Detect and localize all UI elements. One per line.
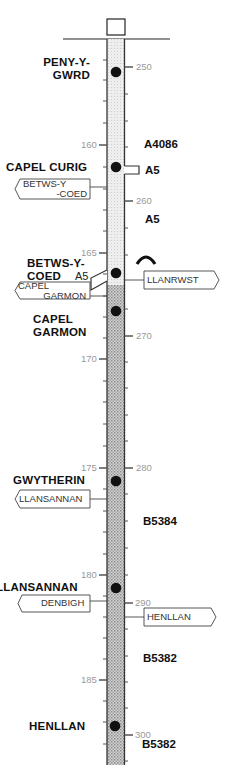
- left-scale-label-165: 165: [81, 247, 97, 258]
- sign-capel-garmon: CAPEL GARMON: [18, 281, 86, 301]
- town-marker-betws-y-coed: [111, 268, 122, 279]
- left-scale-label-160: 160: [81, 139, 97, 150]
- place-label-line1: GWYTHERIN: [13, 474, 85, 486]
- sign-betws-y-coed: BETWS-Y -COED: [23, 179, 87, 199]
- place-label-line2: GARMON: [33, 326, 87, 338]
- junction-a5-left: [91, 270, 107, 290]
- town-marker-henllan: [110, 721, 121, 732]
- sign-text-line1: LLANSANNAN: [19, 493, 82, 504]
- sign-text-line1: HENLLAN: [147, 611, 191, 622]
- junction-a5-right: [125, 166, 140, 174]
- place-label-line1: BETWS-Y-: [27, 257, 85, 269]
- place-gwytherin: GWYTHERIN: [13, 474, 85, 487]
- place-capel-garmon: CAPEL GARMON: [33, 313, 87, 339]
- right-scale-label-300: 300: [135, 729, 151, 740]
- left-scale-label-175: 175: [81, 462, 97, 473]
- town-marker-gwytherin: [111, 476, 122, 487]
- place-label-line1: PENY-Y-: [43, 56, 90, 68]
- right-scale-label-260: 260: [136, 195, 152, 206]
- sign-henllan: HENLLAN: [147, 612, 191, 622]
- place-label-line1: HENLLAN: [29, 720, 85, 732]
- sign-text-line2: GARMON: [18, 291, 86, 301]
- left-scale-label-185: 185: [81, 674, 97, 685]
- road-label-b5384: B5384: [143, 515, 177, 527]
- place-henllan: HENLLAN: [29, 720, 85, 733]
- left-scale-label-170: 170: [81, 353, 97, 364]
- place-peny-y-gwrd: PENY-Y- GWRD: [40, 56, 90, 82]
- road-label-a4086: A4086: [144, 138, 178, 150]
- right-scale-label-290: 290: [135, 597, 151, 608]
- road-label-a5: A5: [145, 164, 160, 176]
- left-scale-ticks: [99, 60, 107, 744]
- route-start-box: [107, 19, 125, 35]
- place-capel-curig: CAPEL CURIG: [6, 161, 87, 174]
- road-label-b5382: B5382: [143, 652, 177, 664]
- sign-text-line1: DENBIGH: [41, 597, 84, 608]
- right-scale-label-250: 250: [136, 61, 152, 72]
- route-strip-dark: [107, 285, 124, 765]
- place-label-line1: CAPEL: [33, 313, 73, 325]
- place-label-line1: LLANSANNAN: [0, 581, 78, 593]
- right-scale-label-280: 280: [136, 462, 152, 473]
- road-label-a5-2: A5: [145, 213, 160, 225]
- steep-hill-icon: [137, 257, 155, 264]
- left-scale-label-180: 180: [81, 569, 97, 580]
- sign-llanrwst: LLANRWST: [147, 275, 199, 285]
- place-label-line2: GWRD: [53, 69, 90, 81]
- place-label-line1: CAPEL CURIG: [6, 161, 87, 173]
- sign-denbigh: DENBIGH: [41, 598, 84, 608]
- sign-llansannan: LLANSANNAN: [19, 494, 82, 504]
- sign-text-line2: -COED: [23, 189, 87, 199]
- town-marker-capel-curig: [111, 162, 122, 173]
- place-llansannan: LLANSANNAN: [0, 581, 78, 594]
- right-scale-label-270: 270: [136, 330, 152, 341]
- route-strip-map: [0, 0, 234, 765]
- town-marker-peny-y-gwrd: [111, 67, 122, 78]
- sign-text-line1: LLANRWST: [147, 274, 199, 285]
- town-marker-llansannan: [111, 583, 122, 594]
- town-marker-capel-garmon: [111, 306, 122, 317]
